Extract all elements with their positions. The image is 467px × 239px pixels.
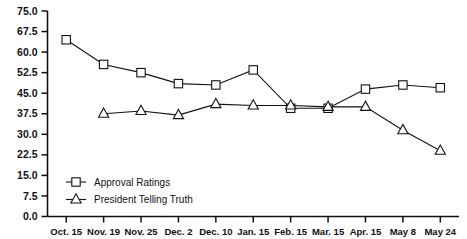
data-point-s1-9 [399, 81, 407, 89]
x-axis-tick-label: Oct. 15 [50, 226, 82, 237]
data-point-s1-1 [99, 60, 107, 68]
x-axis-tick-label: Apr. 15 [350, 226, 382, 237]
data-point-s2-4 [211, 98, 221, 107]
y-axis-tick-label: 0.0 [23, 210, 38, 222]
chart-legend: Approval RatingsPresident Telling Truth [66, 177, 193, 206]
x-axis-tick-label: Nov. 19 [87, 226, 120, 237]
y-axis-tick-label: 75.0 [17, 5, 38, 17]
data-point-s1-2 [137, 68, 145, 76]
y-axis-tick-label: 37.5 [17, 107, 38, 119]
y-axis-tick-label: 15.0 [17, 169, 38, 181]
data-point-s2-10 [435, 145, 445, 154]
data-point-s2-5 [248, 100, 258, 109]
x-axis-tick-label: Jan. 15 [237, 226, 270, 237]
series-markers [62, 36, 445, 155]
y-axis-ticks [42, 11, 48, 217]
y-axis-tick-label: 52.5 [17, 66, 38, 78]
x-axis-tick-label: Nov. 25 [124, 226, 158, 237]
x-axis-tick-labels: Oct. 15Nov. 19Nov. 25Dec. 2Dec. 10Jan. 1… [50, 226, 456, 237]
y-axis-tick-labels: 0.07.515.022.530.037.545.052.560.067.575… [17, 5, 38, 223]
x-axis-tick-label: May 24 [424, 226, 456, 237]
legend-marker-icon-2 [71, 194, 81, 203]
data-point-s1-8 [361, 85, 369, 93]
data-point-s2-1 [99, 108, 109, 117]
data-point-s1-5 [249, 66, 257, 74]
x-axis-tick-label: Feb. 15 [274, 226, 307, 237]
legend-label-2: President Telling Truth [94, 194, 193, 205]
legend-marker-icon-1 [72, 178, 80, 186]
y-axis-tick-label: 60.0 [17, 46, 38, 58]
x-axis-tick-label: Dec. 2 [164, 226, 192, 237]
x-axis-tick-label: Mar. 15 [312, 226, 345, 237]
y-axis-tick-label: 30.0 [17, 128, 38, 140]
y-axis-tick-label: 45.0 [17, 87, 38, 99]
data-point-s1-4 [212, 81, 220, 89]
chart-canvas: 0.07.515.022.530.037.545.052.560.067.575… [0, 0, 467, 239]
series-line-2 [104, 104, 441, 151]
data-point-s2-2 [136, 105, 146, 114]
y-axis-tick-label: 7.5 [23, 190, 38, 202]
legend-label-1: Approval Ratings [94, 177, 170, 188]
x-axis-tick-label: Dec. 10 [199, 226, 232, 237]
y-axis-tick-label: 22.5 [17, 148, 38, 160]
y-axis-tick-label: 67.5 [17, 25, 38, 37]
line-chart: 0.07.515.022.530.037.545.052.560.067.575… [0, 0, 467, 239]
x-axis-tick-label: May 8 [390, 226, 416, 237]
data-point-s1-3 [174, 79, 182, 87]
data-point-s1-0 [62, 36, 70, 44]
x-axis-ticks [66, 217, 440, 223]
data-point-s2-9 [398, 124, 408, 133]
data-point-s1-10 [436, 84, 444, 92]
series-lines [66, 40, 440, 151]
data-point-s2-8 [360, 101, 370, 110]
